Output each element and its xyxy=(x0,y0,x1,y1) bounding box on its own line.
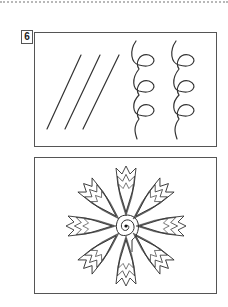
center-spiral xyxy=(116,215,138,252)
loop-coil xyxy=(132,41,154,139)
exercise-number-badge: 6 xyxy=(21,30,33,44)
diagonal-line xyxy=(47,55,81,129)
spiral-start-dot xyxy=(124,224,127,227)
flower-maze-graphic xyxy=(35,158,218,295)
tracing-lines-panel xyxy=(34,32,217,147)
diagonal-line xyxy=(65,55,100,129)
dotted-cut-line xyxy=(0,1,228,3)
flower-maze-panel xyxy=(34,157,217,294)
loop-coil xyxy=(172,41,194,139)
tracing-strokes-graphic xyxy=(35,33,218,148)
diagonal-line xyxy=(83,55,119,129)
